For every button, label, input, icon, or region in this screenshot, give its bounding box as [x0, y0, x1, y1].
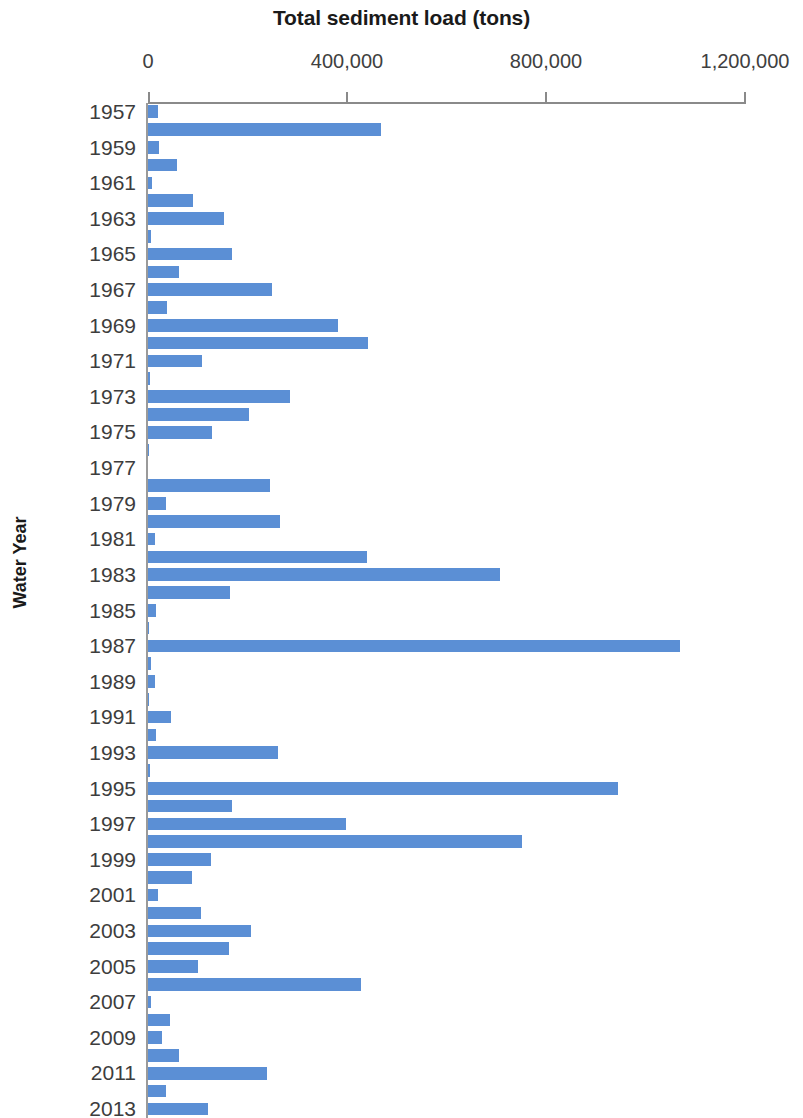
y-tick-label: 1991: [89, 706, 136, 727]
bar-row: [148, 174, 745, 191]
bar[interactable]: [148, 1014, 170, 1027]
bar[interactable]: [148, 123, 381, 136]
bar[interactable]: [148, 390, 290, 403]
bar[interactable]: [148, 248, 232, 261]
bar[interactable]: [148, 622, 149, 635]
bar-row: [148, 780, 745, 797]
bar-row: [148, 424, 745, 441]
y-tick-label: 1965: [89, 243, 136, 264]
y-tick-label: 2003: [89, 920, 136, 941]
bar[interactable]: [148, 586, 230, 599]
bar-row: [148, 869, 745, 886]
bar-row: [148, 904, 745, 921]
bar[interactable]: [148, 337, 368, 350]
bar[interactable]: [148, 444, 149, 457]
bar[interactable]: [148, 925, 251, 938]
bar[interactable]: [148, 426, 212, 439]
bar-row: [148, 815, 745, 832]
bar-row: [148, 210, 745, 227]
y-tick-label: 2011: [91, 1062, 136, 1083]
bar-row: [148, 388, 745, 405]
bar[interactable]: [148, 907, 201, 920]
bar[interactable]: [148, 835, 522, 848]
bar[interactable]: [148, 960, 198, 973]
bar[interactable]: [148, 818, 346, 831]
bar[interactable]: [148, 212, 224, 225]
x-axis-tick-mark: [545, 92, 547, 103]
y-tick-label: 2001: [89, 884, 136, 905]
bar-row: [148, 530, 745, 547]
bar[interactable]: [148, 640, 680, 653]
bar-row: [148, 887, 745, 904]
bar-row: [148, 940, 745, 957]
bar[interactable]: [148, 1031, 162, 1044]
bar[interactable]: [148, 942, 229, 955]
bar[interactable]: [148, 105, 158, 118]
y-tick-label: 1999: [89, 849, 136, 870]
bar[interactable]: [148, 408, 249, 421]
y-tick-label: 1981: [89, 528, 136, 549]
bar-row: [148, 192, 745, 209]
bar-row: [148, 673, 745, 690]
bar[interactable]: [148, 693, 149, 706]
bar-row: [148, 726, 745, 743]
x-axis-tick-mark: [346, 92, 348, 103]
bar[interactable]: [148, 497, 166, 510]
bar[interactable]: [148, 1049, 179, 1062]
bar[interactable]: [148, 283, 272, 296]
bar[interactable]: [148, 996, 151, 1009]
bar[interactable]: [148, 568, 500, 581]
bar[interactable]: [148, 746, 278, 759]
bar[interactable]: [148, 159, 177, 172]
bar[interactable]: [148, 177, 152, 190]
bar-row: [148, 797, 745, 814]
y-tick-label: 1961: [89, 172, 136, 193]
y-tick-label: 1963: [89, 208, 136, 229]
y-tick-label: 1985: [89, 600, 136, 621]
bar[interactable]: [148, 266, 179, 279]
bar-row: [148, 121, 745, 138]
y-tick-label: 2013: [89, 1098, 136, 1118]
bar-row: [148, 1029, 745, 1046]
bar-row: [148, 139, 745, 156]
bar[interactable]: [148, 515, 280, 528]
bar-row: [148, 228, 745, 245]
y-axis-tick-labels: 1957195919611963196519671969197119731975…: [0, 103, 136, 1118]
bar[interactable]: [148, 551, 367, 564]
bar[interactable]: [148, 319, 338, 332]
bar[interactable]: [148, 194, 193, 207]
bar[interactable]: [148, 800, 232, 813]
bar[interactable]: [148, 604, 156, 617]
bar-row: [148, 156, 745, 173]
bar[interactable]: [148, 372, 150, 385]
bar-row: [148, 602, 745, 619]
bar[interactable]: [148, 657, 151, 670]
bar[interactable]: [148, 675, 155, 688]
bar[interactable]: [148, 978, 361, 991]
y-tick-label: 1969: [89, 315, 136, 336]
bar-row: [148, 317, 745, 334]
bar-row: [148, 1047, 745, 1064]
bar[interactable]: [148, 301, 167, 314]
bar[interactable]: [148, 1103, 208, 1116]
bar-row: [148, 263, 745, 280]
bar-row: [148, 637, 745, 654]
x-axis-left-cap: [148, 92, 150, 103]
bar[interactable]: [148, 230, 151, 243]
bar[interactable]: [148, 479, 270, 492]
bar[interactable]: [148, 782, 618, 795]
bar[interactable]: [148, 764, 150, 777]
bar[interactable]: [148, 355, 202, 368]
bar[interactable]: [148, 1067, 267, 1080]
bar[interactable]: [148, 141, 159, 154]
bar[interactable]: [148, 853, 211, 866]
y-tick-label: 2005: [89, 956, 136, 977]
bar[interactable]: [148, 729, 156, 742]
bar[interactable]: [148, 711, 171, 724]
bar[interactable]: [148, 1085, 166, 1098]
bar[interactable]: [148, 889, 158, 902]
bar[interactable]: [148, 871, 192, 884]
bar[interactable]: [148, 533, 155, 546]
bar-row: [148, 922, 745, 939]
bar-row: [148, 370, 745, 387]
